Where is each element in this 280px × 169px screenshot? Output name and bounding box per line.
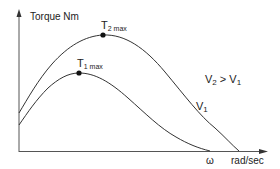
t1-label-sub: 1 max [84,63,103,70]
curve-v2 [19,35,239,151]
t2-label-sub: 2 max [108,25,127,32]
v2-label-sub2: 1 [237,78,241,87]
t1-max-label: T1 max [77,58,103,70]
x-axis-label: rad/sec [231,156,264,166]
omega-label: ω [206,156,214,166]
t2-max-point [100,32,105,37]
x-axis-label-text: rad/sec [231,155,264,166]
t1-label-main: T [77,57,84,69]
v1-label-sub: 1 [203,105,207,114]
t2-label-main: T [101,19,108,31]
v1-curve-label: V1 [196,101,208,114]
y-axis-label-text: Torque Nm [30,11,79,22]
v2-curve-label: V2 > V1 [205,74,241,87]
x-axis-arrow-icon [259,149,268,154]
torque-speed-diagram: Torque Nm T2 max T1 max V2 > V1 V1 ω rad… [0,0,280,169]
t2-max-label: T2 max [101,20,127,32]
omega-text: ω [206,155,214,166]
y-axis-arrow-icon [17,9,22,17]
y-axis-label: Torque Nm [30,12,79,22]
v2-label-compare: > V [217,73,237,85]
curve-v1 [19,73,210,151]
t1-max-point [76,70,81,75]
